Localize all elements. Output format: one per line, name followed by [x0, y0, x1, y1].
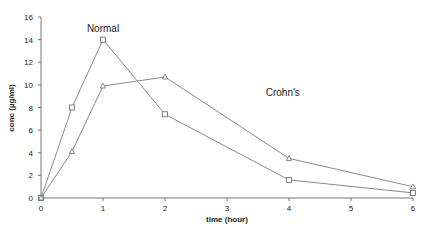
x-tick-label: 5	[349, 204, 354, 213]
data-point-crohn-s	[286, 156, 291, 161]
x-tick-label: 0	[39, 204, 44, 213]
data-point-normal	[70, 105, 75, 110]
y-tick-label: 8	[29, 104, 34, 113]
y-tick-label: 14	[24, 36, 33, 45]
y-axis-title: conc (µg/ml)	[7, 84, 16, 132]
data-point-crohn-s	[69, 149, 74, 154]
x-tick-label: 3	[225, 204, 230, 213]
y-tick-label: 12	[24, 58, 33, 67]
annotations: NormalCrohn's	[87, 23, 300, 97]
data-point-normal	[101, 37, 106, 42]
x-tick-label: 4	[287, 204, 292, 213]
series-layer	[38, 37, 415, 200]
x-axis-title: time (hour)	[206, 215, 248, 224]
y-tick-label: 0	[29, 194, 34, 203]
x-tick-label: 2	[163, 204, 168, 213]
x-tick-label: 1	[101, 204, 106, 213]
x-tick-label: 6	[411, 204, 416, 213]
annotation-label: Crohn's	[266, 87, 300, 98]
chart: 01234560246810121416 NormalCrohn's time …	[0, 0, 429, 237]
data-point-normal	[163, 112, 168, 117]
series-line-crohn-s	[41, 77, 413, 198]
y-tick-label: 16	[24, 13, 33, 22]
y-tick-label: 10	[24, 81, 33, 90]
data-point-crohn-s	[162, 74, 167, 79]
y-tick-label: 6	[29, 126, 34, 135]
y-tick-label: 2	[29, 171, 34, 180]
data-point-normal	[411, 190, 416, 195]
y-tick-label: 4	[29, 149, 34, 158]
data-point-normal	[287, 177, 292, 182]
annotation-label: Normal	[87, 23, 119, 34]
